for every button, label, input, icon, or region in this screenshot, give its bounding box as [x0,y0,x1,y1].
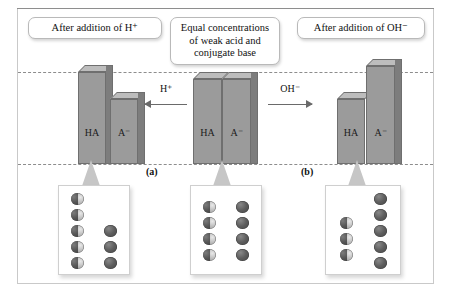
bar-right-am-face [366,66,395,164]
panel-label-middle: Equal concentrations of weak acid and co… [170,17,280,65]
molecule-box-left [58,185,130,275]
molecule-a-minus [374,225,387,237]
bar-left-ha-label: HA [78,127,106,138]
bar-middle-ha: HA [193,72,222,164]
molecule-a-minus [236,233,249,245]
bar-middle-ha-face [193,79,222,164]
arrow-h-plus-label: H⁺ [145,83,187,94]
bar-middle-ha-label: HA [193,127,222,138]
molecule-a-minus [374,209,387,221]
panel-label-middle-line2: of weak acid and [171,35,279,48]
bar-right-ha-label: HA [337,127,365,138]
bar-left-ha-face [78,72,106,164]
molecule-ha [203,249,216,261]
molecule-ha [71,193,84,205]
arrow-h-plus: H⁺ [145,83,187,113]
molecule-a-minus [374,241,387,253]
molecule-a-minus [236,217,249,229]
leader-middle [213,160,231,186]
molecule-a-minus [374,257,387,269]
figure-title: Action of a buffer [0,0,451,4]
bar-middle-am: A⁻ [222,72,251,164]
bar-right-am: A⁻ [366,59,395,164]
caption-a: (a) [146,166,158,177]
bar-right-am-label: A⁻ [366,127,395,138]
caption-b: (b) [301,166,313,177]
bar-middle-am-side [251,72,258,164]
bar-middle-am-label: A⁻ [222,127,251,138]
bar-left-am-label: A⁻ [110,127,138,138]
bar-middle-am-face [222,79,251,164]
panel-label-left: After addition of H⁺ [28,17,162,39]
panel-label-right-text: After addition of OH⁻ [314,22,408,33]
molecule-a-minus [236,249,249,261]
arrow-h-plus-head [144,100,151,108]
molecule-a-minus [104,257,117,269]
molecule-ha [340,217,353,229]
leader-right [348,160,366,186]
panel-label-right: After addition of OH⁻ [297,17,425,39]
molecule-box-right [325,185,401,275]
bar-right-ha: HA [337,92,365,164]
molecule-a-minus [236,201,249,213]
arrow-oh-minus: OH⁻ [268,83,312,113]
molecule-ha [203,233,216,245]
leader-left [82,160,100,186]
molecule-ha [340,249,353,261]
figure-action-of-a-buffer: Action of a buffer After addition of H⁺ … [0,0,451,293]
molecule-ha [203,201,216,213]
molecule-a-minus [104,225,117,237]
bar-left-am: A⁻ [110,92,138,164]
molecule-box-middle [190,185,262,275]
arrow-h-plus-line [145,104,187,105]
molecule-ha [71,225,84,237]
molecule-ha [340,233,353,245]
molecule-ha [71,241,84,253]
molecule-ha [71,257,84,269]
molecule-a-minus [374,193,387,205]
molecule-ha [203,217,216,229]
arrow-oh-minus-head [306,100,313,108]
panel-label-middle-line1: Equal concentrations [171,22,279,35]
panel-label-left-text: After addition of H⁺ [52,22,139,33]
panel-label-middle-line3: conjugate base [171,47,279,60]
bar-right-am-side [395,59,402,164]
bar-left-ha: HA [78,65,106,164]
molecule-ha [71,209,84,221]
arrow-oh-minus-label: OH⁻ [268,83,312,94]
molecule-a-minus [104,241,117,253]
